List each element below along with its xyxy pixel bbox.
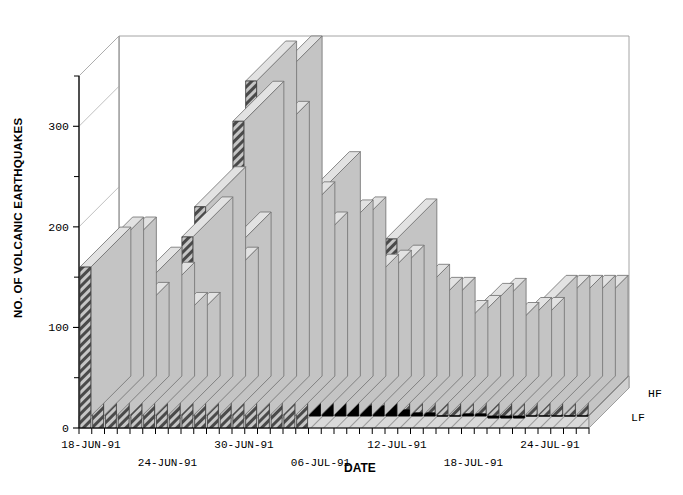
y-tick-label-300: 300 [48,120,69,133]
y-tick-label-200: 200 [48,221,69,234]
x-axis-title: DATE [344,461,376,475]
bar-front-lf [501,416,512,418]
x-axis: 18-JUN-9124-JUN-9130-JUN-9106-JUL-9112-J… [61,428,589,469]
x-tick-label-24-JUL-91: 24-JUL-91 [520,439,580,451]
bar-front-lf [488,416,499,418]
x-tick-label-06-JUL-91: 06-JUL-91 [291,457,351,469]
x-tick-label-30-JUN-91: 30-JUN-91 [214,439,274,451]
volcanic-earthquakes-3d-bar-chart: 0100200300 18-JUN-9124-JUN-9130-JUN-9106… [0,0,683,495]
y-axis-title: NO. OF VOLCANIC EARTHQUAKES [12,118,24,318]
x-tick-label-24-JUN-91: 24-JUN-91 [138,457,198,469]
bar-front-hf [80,267,91,428]
x-tick-label-18-JUN-91: 18-JUN-91 [61,439,121,451]
bar-front-lf [462,414,473,416]
floor-front [79,416,589,428]
bar-front-lf [513,416,524,418]
legend-label-lf: LF [631,411,645,424]
x-tick-label-18-JUL-91: 18-JUL-91 [444,457,504,469]
bar-front-lf [411,413,422,416]
y-tick-label-0: 0 [62,422,69,435]
bar-front-lf [424,413,435,416]
x-tick-label-12-JUL-91: 12-JUL-91 [367,439,427,451]
legend-label-hf: HF [648,387,662,400]
bar-front-lf [475,414,486,416]
y-axis: 0100200300 [48,76,79,435]
y-tick-label-100: 100 [48,321,69,334]
chart-figure: 0100200300 18-JUN-9124-JUN-9130-JUN-9106… [0,0,683,495]
